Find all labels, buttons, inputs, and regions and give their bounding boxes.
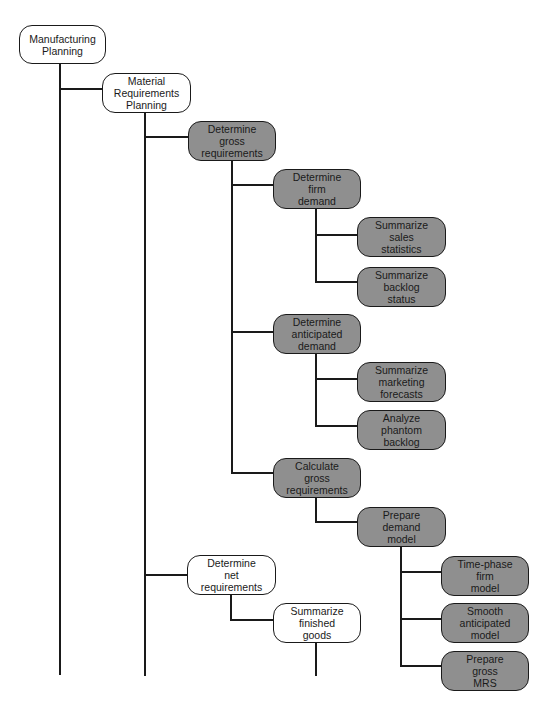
connector-to-determine-gross [144, 136, 189, 138]
connector-prepare-demand [400, 546, 402, 666]
connector-to-finished-goods [230, 619, 274, 621]
node-prepare-demand-model: Prepare demand model [357, 507, 446, 547]
connector-manufacturing-planning [59, 63, 61, 675]
connector-determine-gross [231, 160, 233, 473]
node-analyze-phantom-backlog: Analyze phantom backlog [357, 410, 446, 450]
node-material-requirements-planning: Material Requirements Planning [102, 73, 191, 113]
node-label: Determine firm demand [293, 171, 341, 207]
node-label: Prepare gross MRS [466, 653, 503, 689]
node-summarize-finished-goods: Summarize finished goods [273, 603, 361, 643]
node-summarize-marketing-forecasts: Summarize marketing forecasts [357, 362, 446, 402]
node-prepare-gross-mrs: Prepare gross MRS [441, 651, 529, 691]
node-label: Summarize marketing forecasts [375, 364, 428, 400]
connector-finished-goods [315, 642, 317, 676]
node-manufacturing-planning: Manufacturing Planning [19, 25, 106, 64]
connector-mrp [144, 112, 146, 676]
node-label: Determine net requirements [201, 557, 262, 593]
node-label: Material Requirements Planning [114, 75, 179, 111]
connector-to-firm-demand [231, 184, 274, 186]
node-determine-firm-demand: Determine firm demand [273, 169, 361, 209]
connector-to-prepare-gross-mrs [400, 665, 442, 667]
connector-to-marketing-forecasts [315, 378, 359, 380]
node-smooth-anticipated-model: Smooth anticipated model [441, 603, 529, 643]
node-label: Prepare demand model [383, 509, 421, 545]
node-determine-anticipated-demand: Determine anticipated demand [273, 314, 361, 354]
node-time-phase-firm-model: Time-phase firm model [441, 556, 529, 596]
node-label: Time-phase firm model [457, 558, 512, 594]
connector-to-phantom-backlog [315, 425, 359, 427]
connector-to-sales-statistics [315, 234, 359, 236]
node-label: Calculate gross requirements [286, 460, 347, 496]
node-label: Smooth anticipated model [460, 605, 511, 641]
node-label: Summarize sales statistics [375, 219, 428, 255]
node-summarize-sales-statistics: Summarize sales statistics [357, 217, 446, 257]
connector-to-determine-net [144, 574, 188, 576]
connector-to-calculate-gross [231, 472, 274, 474]
node-label: Summarize finished goods [290, 605, 343, 641]
connector-to-anticipated-demand [231, 331, 274, 333]
node-label: Summarize backlog status [375, 269, 428, 305]
connector-determine-net [230, 594, 232, 620]
connector-firm-demand [315, 208, 317, 283]
connector-to-prepare-demand [315, 521, 359, 523]
connector-to-backlog-status [315, 281, 359, 283]
node-calculate-gross-requirements: Calculate gross requirements [273, 458, 361, 498]
connector-calculate-gross [315, 497, 317, 522]
connector-to-time-phase [400, 571, 442, 573]
connector-to-mrp [59, 88, 103, 90]
node-determine-net-requirements: Determine net requirements [187, 555, 276, 595]
connector-to-smooth-anticipated [400, 618, 442, 620]
connector-anticipated-demand [315, 353, 317, 426]
node-summarize-backlog-status: Summarize backlog status [357, 267, 446, 307]
node-label: Determine gross requirements [201, 123, 262, 159]
node-label: Manufacturing Planning [29, 33, 96, 57]
node-determine-gross-requirements: Determine gross requirements [188, 121, 276, 161]
node-label: Determine anticipated demand [292, 316, 343, 352]
node-label: Analyze phantom backlog [381, 412, 422, 448]
